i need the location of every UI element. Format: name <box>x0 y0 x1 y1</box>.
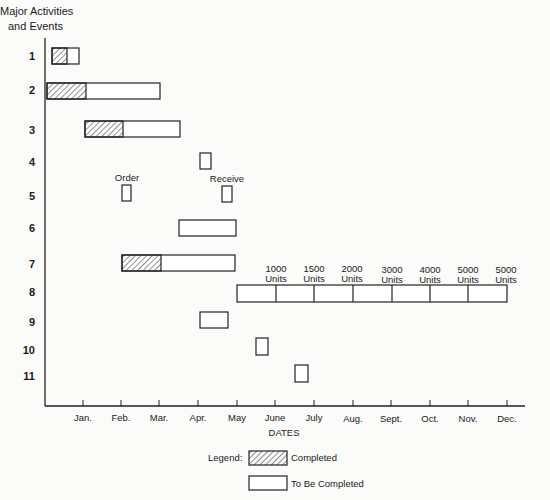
bar-row-5-receive <box>222 186 232 202</box>
segment-label-2: 1500Units <box>294 264 334 284</box>
bar-row-5-order <box>122 185 131 201</box>
x-tick-june: June <box>255 412 295 423</box>
row-label-10: 10 <box>5 344 35 356</box>
annotation-order: Order <box>107 173 147 183</box>
gantt-chart <box>0 0 550 500</box>
segment-label-1: 1000Units <box>256 264 296 284</box>
bar-row-9 <box>200 312 228 328</box>
x-tick-oct: Oct. <box>410 413 450 424</box>
bar-row-11 <box>295 365 308 382</box>
x-tick-dec: Dec. <box>487 413 527 424</box>
legend-swatch-completed <box>249 451 287 465</box>
y-axis-title-line1: Major Activities <box>0 4 90 19</box>
segment-label-5: 4000Units <box>410 265 450 285</box>
row-label-9: 9 <box>5 316 35 328</box>
x-tick-jan: Jan. <box>63 412 103 423</box>
x-tick-may: May <box>217 412 257 423</box>
bar-row-10 <box>256 338 268 355</box>
annotation-receive: Receive <box>205 174 249 184</box>
bar-row-3 <box>85 121 180 137</box>
bar-row-1 <box>52 48 79 64</box>
segment-label-6: 5000Units <box>448 265 488 285</box>
segment-label-3: 2000Units <box>332 264 372 284</box>
legend-label-completed: Completed <box>291 452 337 463</box>
row-label-2: 2 <box>5 84 35 96</box>
bar-row-2 <box>47 83 160 99</box>
x-axis-title: DATES <box>254 427 314 438</box>
x-tick-aug: Aug. <box>333 413 373 424</box>
row-label-5: 5 <box>5 190 35 202</box>
row-label-8: 8 <box>5 286 35 298</box>
row-label-6: 6 <box>5 222 35 234</box>
x-tick-mar: Mar. <box>139 412 179 423</box>
x-ticks <box>83 400 507 406</box>
row-label-3: 3 <box>5 124 35 136</box>
legend-swatch-to-be-completed <box>249 476 287 490</box>
bar-row-8 <box>237 285 507 302</box>
row-label-4: 4 <box>5 156 35 168</box>
x-tick-nov: Nov. <box>448 413 488 424</box>
y-axis-title-line2: and Events <box>0 19 90 34</box>
legend-title: Legend: <box>208 452 242 463</box>
x-tick-apr: Apr. <box>178 412 218 423</box>
x-tick-sept: Sept. <box>371 413 411 424</box>
segment-label-4: 3000Units <box>372 265 412 285</box>
bar-row-7 <box>122 255 235 271</box>
x-tick-feb: Feb. <box>101 412 141 423</box>
row-label-7: 7 <box>5 258 35 270</box>
row-label-11: 11 <box>5 370 35 382</box>
x-tick-july: July <box>294 412 334 423</box>
row-label-1: 1 <box>5 50 35 62</box>
bar-row-6 <box>179 220 236 236</box>
y-axis-title: Major Activities and Events <box>0 4 90 34</box>
legend-label-to-be-completed: To Be Completed <box>291 478 364 489</box>
segment-label-7: 5000Units <box>486 265 526 285</box>
bar-row-4 <box>200 153 211 169</box>
